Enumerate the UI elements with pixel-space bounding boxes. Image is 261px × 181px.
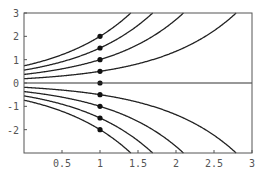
y-tick-label: 0 bbox=[13, 78, 19, 89]
chart: 0.511.522.53 -2-10123 bbox=[0, 0, 261, 181]
x-tick-label: 2 bbox=[173, 158, 179, 169]
solution-curve-3 bbox=[24, 13, 236, 79]
y-tick-label: -1 bbox=[7, 101, 19, 112]
x-tick-label: 1.5 bbox=[129, 158, 147, 169]
x-tick-label: 0.5 bbox=[53, 158, 71, 169]
initial-point-dot bbox=[97, 34, 102, 39]
x-tick-label: 3 bbox=[249, 158, 255, 169]
solution-curve-0 bbox=[24, 13, 131, 66]
y-tick-label: 3 bbox=[13, 8, 19, 19]
initial-point-dot bbox=[97, 57, 102, 62]
solution-curve-1 bbox=[24, 13, 153, 70]
y-tick-label: 1 bbox=[13, 55, 19, 66]
x-tick-label: 2.5 bbox=[205, 158, 223, 169]
initial-point-dot bbox=[97, 92, 102, 97]
y-tick-label: -2 bbox=[7, 125, 19, 136]
solution-curve-5 bbox=[24, 87, 236, 153]
solution-curve-8 bbox=[24, 100, 131, 153]
initial-point-dot bbox=[97, 45, 102, 50]
y-tick-label: 2 bbox=[13, 31, 19, 42]
initial-point-dot bbox=[97, 69, 102, 74]
x-tick-label: 1 bbox=[97, 158, 103, 169]
initial-point-dot bbox=[97, 127, 102, 132]
solution-curve-7 bbox=[24, 96, 153, 153]
initial-point-dot bbox=[97, 115, 102, 120]
initial-point-dot bbox=[97, 104, 102, 109]
